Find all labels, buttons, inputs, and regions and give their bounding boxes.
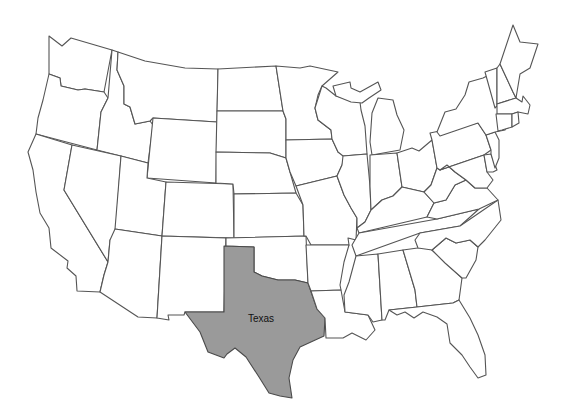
- state-new-mexico[interactable]: [157, 236, 226, 320]
- texas-label: Texas: [248, 313, 274, 324]
- state-rhode-island[interactable]: [512, 112, 519, 127]
- state-florida[interactable]: [389, 300, 486, 378]
- state-arkansas[interactable]: [306, 245, 349, 291]
- state-colorado[interactable]: [162, 182, 234, 238]
- state-connecticut[interactable]: [496, 114, 512, 131]
- state-michigan-lower[interactable]: [370, 98, 404, 155]
- state-kansas[interactable]: [234, 193, 304, 238]
- state-arizona[interactable]: [100, 229, 162, 318]
- state-wyoming[interactable]: [147, 118, 217, 183]
- state-south-dakota[interactable]: [216, 111, 286, 158]
- state-mississippi[interactable]: [344, 254, 382, 322]
- state-north-dakota[interactable]: [217, 66, 283, 111]
- state-montana[interactable]: [117, 52, 218, 124]
- us-map: Texas: [0, 0, 567, 419]
